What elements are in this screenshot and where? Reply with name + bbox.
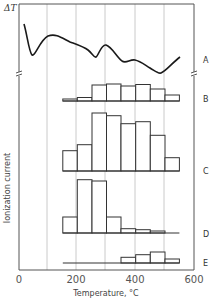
series-b [63,84,180,101]
y-axis-label: Ionization current [3,153,12,223]
curve-a [24,24,180,73]
series-c [63,113,180,171]
x-tick-200: 200 [66,274,85,285]
chart: ΔT A B C D E 0 200 400 600 Temperature, … [0,0,214,302]
delta-t-label: ΔT [3,3,17,13]
axis-break-right [191,71,197,76]
series-d [63,180,180,233]
x-tick-0: 0 [16,274,22,285]
series-label-b: B [203,95,209,104]
axis-break-left [16,71,22,76]
series-label-e: E [203,259,208,268]
x-tick-600: 600 [184,274,203,285]
series-label-a: A [203,56,209,65]
series-e [63,252,180,263]
x-axis-label: Temperature, °C [72,289,139,298]
x-tick-400: 400 [125,274,144,285]
series-label-d: D [203,230,209,239]
series-label-c: C [203,167,209,176]
